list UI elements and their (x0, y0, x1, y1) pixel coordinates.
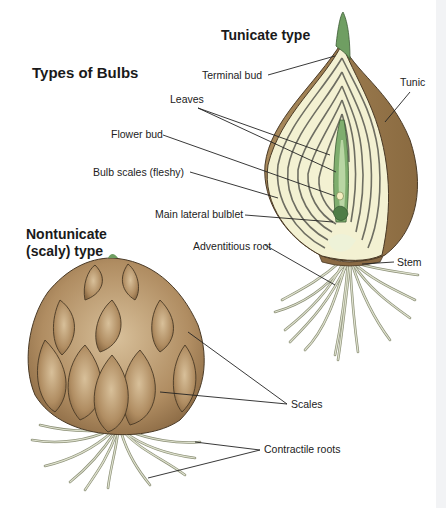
bulb-types-diagram: Types of Bulbs Tunicate type Terminal bu… (0, 0, 446, 508)
label-flower-bud: Flower bud (111, 128, 163, 140)
nontunicate-bulb-illustration (28, 254, 204, 490)
label-leaves: Leaves (170, 93, 204, 105)
leader-contractile-2 (148, 450, 260, 478)
tunicate-bulb-illustration (265, 12, 418, 360)
label-main-lateral-bulblet: Main lateral bulblet (155, 208, 243, 220)
label-contractile-roots: Contractile roots (264, 443, 340, 455)
scaly-bulb-tip (108, 254, 118, 258)
tunicate-heading: Tunicate type (221, 27, 310, 43)
nontunicate-heading-line2: (scaly) type (26, 243, 107, 260)
nontunicate-heading-line1: Nontunicate (26, 226, 107, 243)
flower-bud (337, 192, 344, 200)
label-terminal-bud: Terminal bud (202, 69, 262, 81)
label-stem: Stem (397, 256, 422, 268)
label-tunic: Tunic (400, 76, 425, 88)
label-bulb-scales: Bulb scales (fleshy) (93, 166, 184, 178)
leader-contractile-1 (195, 442, 260, 450)
label-scales: Scales (291, 398, 323, 410)
diagram-title: Types of Bulbs (32, 64, 138, 81)
label-adventitious-root: Adventitious root (193, 240, 271, 252)
nontunicate-heading: Nontunicate (scaly) type (26, 226, 107, 260)
